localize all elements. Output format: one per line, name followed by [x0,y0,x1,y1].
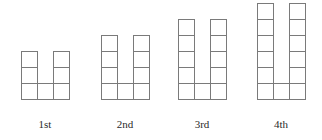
unit-square [211,84,227,100]
unit-square [54,52,70,68]
unit-square [211,52,227,68]
unit-square [118,84,134,100]
unit-square [211,20,227,36]
figure-2nd [102,36,150,100]
unit-square [274,84,290,100]
unit-square [54,84,70,100]
unit-square [258,68,274,84]
unit-square [134,36,150,52]
figure-1st [22,52,70,100]
unit-square [102,68,118,84]
unit-square [290,36,306,52]
unit-square [134,68,150,84]
unit-square [179,52,195,68]
unit-square [22,68,38,84]
figure-3rd [179,20,227,100]
unit-square [290,52,306,68]
unit-square [258,20,274,36]
figure-label-2nd: 2nd [117,118,134,130]
unit-square [54,68,70,84]
unit-square [179,20,195,36]
pattern-diagram: 1st2nd3rd4th [0,0,322,140]
unit-square [102,36,118,52]
unit-square [290,84,306,100]
unit-square [195,84,211,100]
unit-square [290,20,306,36]
unit-square [211,68,227,84]
unit-square [258,52,274,68]
unit-square [134,52,150,68]
unit-square [179,68,195,84]
unit-square [258,84,274,100]
unit-square [102,84,118,100]
unit-square [22,52,38,68]
unit-square [211,36,227,52]
unit-square [290,4,306,20]
figure-label-1st: 1st [39,118,52,130]
figures-layer [22,4,306,100]
figure-label-3rd: 3rd [195,118,210,130]
unit-square [22,84,38,100]
unit-square [179,36,195,52]
figure-label-4th: 4th [274,118,289,130]
unit-square [134,84,150,100]
unit-square [258,4,274,20]
unit-square [38,84,54,100]
unit-square [258,36,274,52]
unit-square [179,84,195,100]
unit-square [102,52,118,68]
figure-4th [258,4,306,100]
labels-layer: 1st2nd3rd4th [39,118,289,130]
unit-square [290,68,306,84]
